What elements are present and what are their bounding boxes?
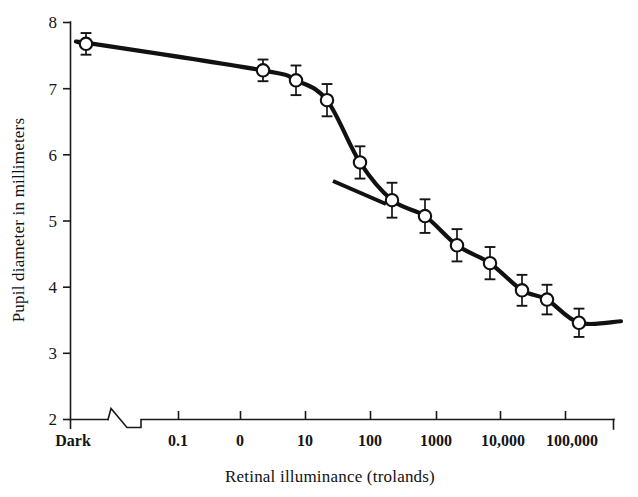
data-point-marker xyxy=(321,94,333,106)
data-point xyxy=(321,84,333,116)
y-axis-ticks xyxy=(63,23,71,420)
data-point xyxy=(80,33,92,55)
data-point xyxy=(484,247,496,279)
x-tick-label-10000: 10,000 xyxy=(481,432,525,449)
data-curve xyxy=(76,42,621,325)
data-points-group xyxy=(80,33,585,337)
data-point xyxy=(541,285,553,315)
data-point-marker xyxy=(573,317,585,329)
y-tick-label-3: 3 xyxy=(49,344,58,363)
data-point-marker xyxy=(257,64,269,76)
x-axis-break-and-main-line xyxy=(108,409,614,428)
data-point-marker xyxy=(354,156,366,168)
data-point xyxy=(257,60,269,82)
data-point xyxy=(516,275,528,306)
x-tick-label-100: 100 xyxy=(358,432,382,449)
data-point xyxy=(451,229,463,261)
chart-svg: 8 7 6 5 4 3 2 Dark 0.1 0 10 100 1000 10,… xyxy=(0,0,638,497)
data-point-marker xyxy=(516,284,528,296)
y-tick-label-7: 7 xyxy=(49,80,58,99)
x-tick-label-0-1: 0.1 xyxy=(168,432,188,449)
data-point xyxy=(419,199,431,233)
data-point-marker xyxy=(484,257,496,269)
y-tick-label-6: 6 xyxy=(49,146,58,165)
data-point-marker xyxy=(80,38,92,50)
x-axis-title: Retinal illuminance (trolands) xyxy=(225,467,435,486)
data-point xyxy=(290,65,302,95)
data-point-marker xyxy=(386,194,398,206)
x-tick-label-0: 0 xyxy=(236,432,244,449)
y-axis-title: Pupil diameter in millimeters xyxy=(9,118,28,323)
data-point-marker xyxy=(419,210,431,222)
y-tick-label-2: 2 xyxy=(49,410,58,429)
data-point-marker xyxy=(541,293,553,305)
y-tick-label-5: 5 xyxy=(49,212,58,231)
x-tick-label-10: 10 xyxy=(297,432,313,449)
x-tick-label-1000: 1000 xyxy=(420,432,452,449)
data-point-marker xyxy=(290,74,302,86)
x-tick-label-100000: 100,000 xyxy=(546,432,598,449)
y-tick-label-4: 4 xyxy=(49,278,58,297)
y-tick-label-8: 8 xyxy=(49,13,58,32)
data-point xyxy=(573,309,585,337)
x-tick-label-dark: Dark xyxy=(55,432,91,449)
pupil-diameter-chart: 8 7 6 5 4 3 2 Dark 0.1 0 10 100 1000 10,… xyxy=(0,0,638,497)
data-point-marker xyxy=(451,239,463,251)
data-point xyxy=(386,183,398,218)
